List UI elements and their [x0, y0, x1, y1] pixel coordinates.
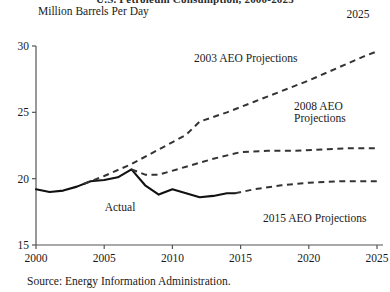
annotation-projections: Projections: [294, 112, 346, 125]
x-tick-label: 2025: [366, 252, 389, 264]
source-note: Source: Energy Information Administratio…: [27, 275, 231, 287]
series-line-2015-aeo-projections: [235, 181, 377, 193]
series-line-actual: [36, 169, 235, 197]
y-tick-label: 15: [18, 239, 30, 251]
series-line-2008-aeo-projections: [131, 148, 377, 175]
annotation-actual: Actual: [105, 201, 136, 213]
annotation-2015-aeo-projections: 2015 AEO Projections: [263, 212, 367, 225]
annotation-2008-aeo: 2008 AEO: [294, 100, 343, 112]
annotation-2003-aeo-projections: 2003 AEO Projections: [194, 52, 298, 65]
y-tick-label: 30: [18, 40, 30, 52]
y-tick-label: 25: [18, 106, 30, 118]
x-tick-label: 2000: [25, 252, 48, 264]
annotation-2025: 2025: [347, 8, 370, 20]
x-tick-label: 2020: [297, 252, 320, 264]
x-tick-label: 2010: [161, 252, 184, 264]
x-tick-label: 2015: [229, 252, 252, 264]
chart-figure: U.S. Petroleum Consumption, 2000-2025 Mi…: [0, 0, 390, 292]
chart-plot-area: 152025302000200520102015202020252003 AEO…: [0, 0, 390, 292]
y-tick-label: 20: [18, 173, 30, 185]
x-tick-label: 2005: [93, 252, 116, 264]
